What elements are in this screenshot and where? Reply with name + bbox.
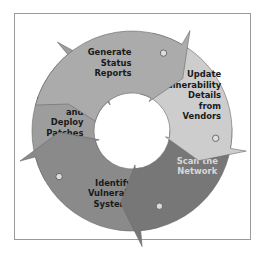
stage-dot-icon [213,135,219,141]
stage-label-line: Generate [88,47,132,57]
stage-label-line: from [199,101,222,111]
stage-dot-icon [160,50,166,56]
center-hole [96,95,168,167]
stage-label-line: Update [187,69,221,79]
cycle-diagram: DownloadandDeployPatchesIdentifyVulnerab… [0,0,264,255]
stage-dot-icon [156,203,162,209]
stage-label-line: Network [177,166,217,176]
stage-label-line: Deploy [51,117,84,127]
stage-dot-icon [56,173,62,179]
stage-label-line: Status [101,58,132,68]
stage-label-line: Vendors [183,111,222,121]
stage-label-line: Reports [94,68,131,78]
stage-label-line: Identify [95,178,132,188]
stage-label-line: Details [188,90,221,100]
